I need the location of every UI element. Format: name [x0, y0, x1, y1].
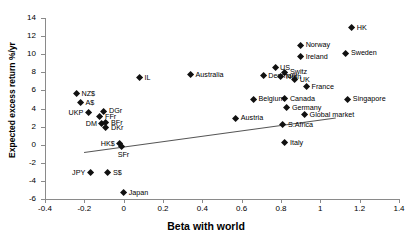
data-point-label: Global market: [310, 111, 355, 118]
x-tick-label: 1.2: [340, 204, 380, 213]
data-point-label: Australia: [196, 71, 224, 78]
data-point-label: UK: [300, 76, 310, 83]
data-point-label: Austria: [241, 114, 263, 121]
data-point-label: DM: [86, 120, 97, 127]
x-tick-label: 0.4: [182, 204, 222, 213]
x-tick: [202, 199, 203, 203]
data-point-label: HK$: [101, 140, 115, 147]
data-point-label: Ireland: [306, 53, 328, 60]
x-tick: [163, 199, 164, 203]
data-point-label: HK: [357, 24, 367, 31]
x-tick: [281, 199, 282, 203]
data-point-label: S.Africa: [288, 121, 313, 128]
data-point-label: A$: [85, 99, 94, 106]
x-axis-title: Beta with world: [0, 220, 412, 232]
data-point-label: NZ$: [81, 90, 95, 97]
x-tick-label: 0.8: [261, 204, 301, 213]
x-tick: [399, 199, 400, 203]
scatter-chart: -6-4-202468101214 -0.4-0.200.20.40.60.81…: [0, 0, 412, 240]
data-point-label: Italy: [290, 139, 303, 146]
x-tick-label: 0.2: [143, 204, 183, 213]
data-point-label: JPY: [72, 169, 85, 176]
x-tick-label: 1.4: [379, 204, 412, 213]
x-axis-line: [45, 199, 400, 200]
x-tick-label: 0: [104, 204, 144, 213]
data-point-label: Norway: [306, 41, 330, 48]
x-tick-label: -0.2: [64, 204, 104, 213]
data-point-label: SFr: [118, 151, 130, 158]
x-tick: [242, 199, 243, 203]
data-point-label: France: [312, 83, 334, 90]
data-point-label: Singapore: [353, 95, 386, 102]
x-tick-label: -0.4: [25, 204, 65, 213]
data-point-label: S$: [113, 169, 122, 176]
x-tick-label: 1: [300, 204, 340, 213]
plot-area: [45, 18, 399, 199]
x-tick-label: 0.6: [222, 204, 262, 213]
x-tick: [320, 199, 321, 203]
data-point-label: UKP: [68, 109, 83, 116]
data-point-label: Canada: [290, 95, 315, 102]
data-point-label: IL: [144, 74, 150, 81]
x-tick: [360, 199, 361, 203]
x-tick: [124, 199, 125, 203]
data-point-label: Japan: [129, 189, 149, 196]
x-tick: [45, 199, 46, 203]
data-point-label: Belgium: [258, 95, 284, 102]
y-tick-label: -6: [8, 195, 36, 203]
data-point-label: Sweden: [351, 49, 377, 56]
y-axis-title: Expected excess return %/yr: [7, 10, 17, 190]
x-tick: [84, 199, 85, 203]
data-point-label: DKr: [111, 124, 123, 131]
